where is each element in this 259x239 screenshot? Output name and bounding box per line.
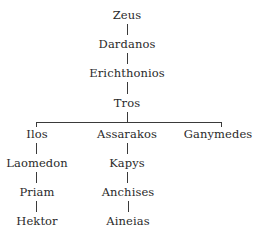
connector-zeus-dardanos bbox=[127, 24, 128, 35]
node-anchises: Anchises bbox=[102, 185, 155, 199]
connector-dardanos-erichthonios bbox=[127, 53, 128, 64]
node-zeus: Zeus bbox=[113, 8, 142, 22]
connector-priam-hektor bbox=[36, 201, 37, 212]
connector-laomedon-priam bbox=[36, 172, 37, 183]
connector-assarakos-kapys bbox=[127, 143, 128, 154]
node-laomedon: Laomedon bbox=[6, 156, 68, 170]
node-aineias: Aineias bbox=[106, 214, 149, 228]
node-assarakos: Assarakos bbox=[97, 127, 157, 141]
connector-kapys-anchises bbox=[127, 172, 128, 183]
node-ilos: Ilos bbox=[26, 127, 47, 141]
connector-anchises-aineias bbox=[128, 201, 129, 212]
node-tros: Tros bbox=[114, 96, 140, 110]
node-erichthonios: Erichthonios bbox=[89, 66, 164, 80]
node-ganymedes: Ganymedes bbox=[184, 127, 253, 141]
node-dardanos: Dardanos bbox=[99, 37, 156, 51]
branch-bar bbox=[36, 122, 222, 123]
node-hektor: Hektor bbox=[16, 214, 57, 228]
connector-tros-branch bbox=[127, 112, 128, 122]
connector-ilos-laomedon bbox=[36, 143, 37, 154]
node-kapys: Kapys bbox=[109, 156, 145, 170]
connector-erichthonios-tros bbox=[127, 82, 128, 94]
node-priam: Priam bbox=[19, 185, 54, 199]
